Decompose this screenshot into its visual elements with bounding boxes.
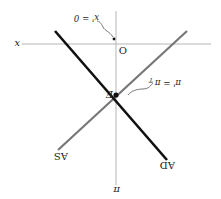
ad-as-diagram: π x O E AD AS π' = π T x' = 0 xyxy=(0,0,221,199)
origin-point xyxy=(113,38,116,41)
origin-annotation: x' = 0 xyxy=(73,13,99,23)
svg-text:π' = π: π' = π xyxy=(155,78,182,88)
equilibrium-label: E xyxy=(105,89,114,100)
equilibrium-point xyxy=(113,92,118,97)
equilibrium-annotation: π' = π T xyxy=(148,77,182,88)
svg-text:T: T xyxy=(148,77,153,84)
origin-label: O xyxy=(119,45,127,56)
ad-label: AD xyxy=(160,160,176,171)
horizontal-axis-label: x xyxy=(14,39,20,50)
vertical-axis-label: π xyxy=(113,185,121,196)
diagram-canvas: π x O E AD AS π' = π T x' = 0 xyxy=(0,0,221,199)
as-label: AS xyxy=(54,151,69,162)
